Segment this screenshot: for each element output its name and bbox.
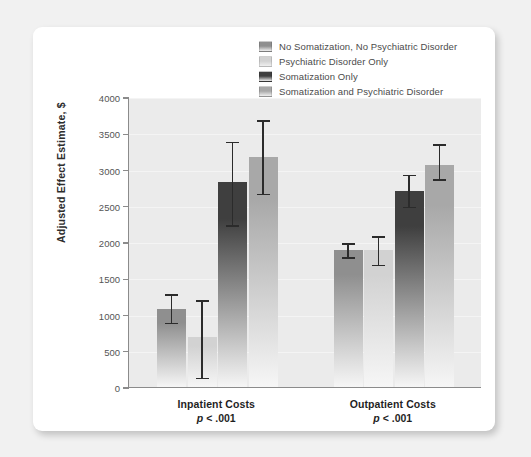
error-bar-cap-upper — [226, 142, 239, 144]
error-bar-cap-lower — [257, 194, 270, 196]
error-bar-cap-lower — [372, 265, 385, 267]
x-axis-group-label: Inpatient Costsp < .001 — [128, 398, 305, 424]
plot-area: 05001000150020002500300035004000 — [128, 98, 481, 388]
x-axis-group-label: Outpatient Costsp < .001 — [305, 398, 482, 424]
error-bar — [439, 144, 440, 180]
y-axis-tick-label: 2500 — [99, 201, 120, 212]
error-bar-cap-upper — [196, 300, 209, 302]
error-bar — [232, 142, 233, 228]
error-bar-cap-lower — [226, 225, 239, 227]
group-name: Inpatient Costs — [128, 398, 305, 410]
error-bar — [262, 120, 263, 195]
error-bar-cap-upper — [342, 243, 355, 245]
y-axis-tick — [123, 351, 129, 352]
gridline — [129, 134, 481, 135]
error-bar-cap-lower — [342, 257, 355, 259]
error-bar-cap-upper — [165, 294, 178, 296]
y-axis-tick-label: 500 — [104, 346, 120, 357]
y-axis-tick — [123, 242, 129, 243]
bar — [334, 250, 363, 387]
error-bar-cap-upper — [403, 175, 416, 177]
y-axis-tick-label: 2000 — [99, 238, 120, 249]
y-axis-tick-label: 0 — [115, 383, 120, 394]
bar — [364, 250, 393, 387]
y-axis-tick — [123, 134, 129, 135]
error-bar-cap-lower — [165, 323, 178, 325]
y-axis-tick — [123, 170, 129, 171]
error-bar — [378, 236, 379, 266]
group-pvalue: p < .001 — [305, 412, 482, 424]
error-bar — [171, 294, 172, 324]
error-bar-cap-lower — [403, 207, 416, 209]
bar — [395, 191, 424, 387]
y-axis-tick-label: 1500 — [99, 274, 120, 285]
error-bar-cap-lower — [433, 179, 446, 181]
error-bar-cap-lower — [196, 378, 209, 380]
group-pvalue: p < .001 — [128, 412, 305, 424]
error-bar — [201, 300, 202, 379]
y-axis-tick-label: 3500 — [99, 129, 120, 140]
y-axis-tick — [123, 387, 129, 388]
plot-wrapper: Adjusted Effect Estimate, $ 050010001500… — [33, 27, 495, 431]
error-bar-cap-upper — [372, 236, 385, 238]
gridline — [129, 98, 481, 99]
chart-card: No Somatization, No Psychiatric Disorder… — [33, 27, 495, 431]
y-axis-title: Adjusted Effect Estimate, $ — [55, 102, 67, 243]
error-bar-cap-upper — [257, 120, 270, 122]
y-axis-tick-label: 1000 — [99, 310, 120, 321]
error-bar — [408, 175, 409, 208]
group-name: Outpatient Costs — [305, 398, 482, 410]
bar — [425, 165, 454, 387]
error-bar — [347, 243, 348, 259]
y-axis-tick — [123, 315, 129, 316]
error-bar-cap-upper — [433, 144, 446, 146]
y-axis-tick-label: 3000 — [99, 165, 120, 176]
y-axis-tick — [123, 279, 129, 280]
y-axis-tick — [123, 206, 129, 207]
y-axis-tick-label: 4000 — [99, 93, 120, 104]
y-axis-tick — [123, 97, 129, 98]
